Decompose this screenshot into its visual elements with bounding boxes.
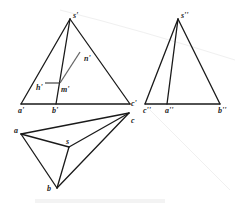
- watermark-lines: [60, 10, 235, 190]
- side-edge-sb: [178, 19, 220, 104]
- top-view: [21, 113, 129, 188]
- label-c-side: c'': [143, 107, 151, 115]
- label-b-front: b': [52, 107, 58, 115]
- top-edge-ac: [21, 113, 129, 134]
- label-n-front: n': [84, 55, 91, 63]
- front-edge-sc: [70, 19, 130, 104]
- watermark-text: [35, 199, 165, 203]
- label-b-side: b'': [218, 107, 226, 115]
- label-a-side: a'': [165, 107, 173, 115]
- label-m-front: m': [61, 86, 69, 94]
- label-b-top: b: [47, 185, 51, 193]
- side-view: [145, 19, 220, 104]
- projection-diagram: [0, 0, 242, 206]
- label-s-front: s': [73, 12, 78, 20]
- label-c-top: c: [131, 117, 135, 125]
- label-a-front: a': [18, 107, 24, 115]
- label-c-front: c': [131, 100, 137, 108]
- label-s-top: s: [66, 138, 69, 146]
- top-edge-sc: [69, 113, 129, 147]
- label-a-top: a: [14, 127, 18, 135]
- label-s-side: s'': [181, 12, 189, 20]
- front-line-mn: [60, 52, 80, 83]
- label-h-front: h': [36, 84, 43, 92]
